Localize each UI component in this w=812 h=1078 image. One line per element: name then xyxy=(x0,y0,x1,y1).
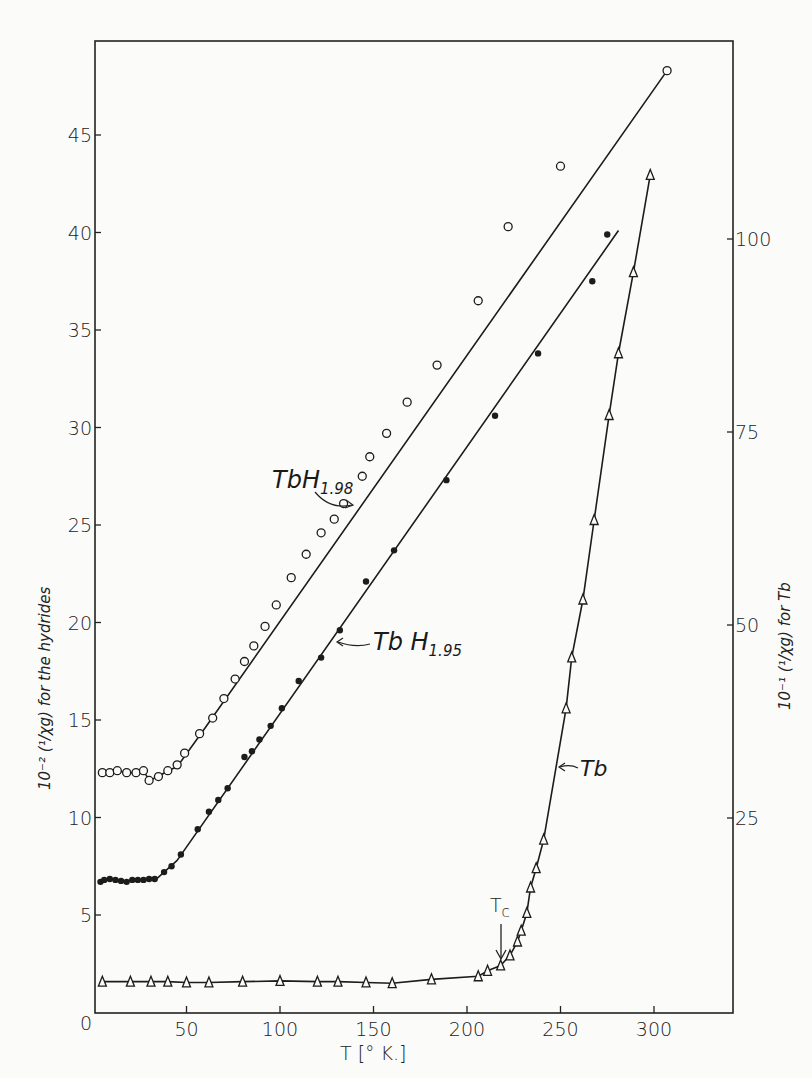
susceptibility-chart: 50100150200250300 51015202530354045 2550… xyxy=(0,0,812,1078)
fit-line-Tb xyxy=(102,175,650,983)
left-y-tick-label: 40 xyxy=(68,222,92,244)
right-y-tick-label: 25 xyxy=(735,807,759,829)
filled-circle-marker xyxy=(604,231,610,237)
x-tick-label: 200 xyxy=(449,1018,485,1040)
open-circle-marker xyxy=(240,658,248,666)
filled-circle-marker xyxy=(267,723,273,729)
right-y-axis-label: 10⁻¹ (¹/χg) for Tb xyxy=(776,582,794,710)
open-circle-marker xyxy=(173,761,181,769)
open-circle-marker xyxy=(474,297,482,305)
filled-circle-marker xyxy=(492,413,498,419)
left-y-tick-label: 5 xyxy=(80,904,92,926)
filled-circle-marker xyxy=(195,826,201,832)
open-circle-marker xyxy=(366,453,374,461)
open-triangle-marker xyxy=(614,348,622,358)
left-y-axis-ticks: 51015202530354045 xyxy=(68,124,101,926)
svg-text:Tb H1.95: Tb H1.95 xyxy=(373,628,462,660)
filled-circle-marker xyxy=(318,654,324,660)
plot-frame xyxy=(95,41,733,1013)
left-y-tick-label: 15 xyxy=(68,709,92,731)
filled-circle-marker xyxy=(118,878,124,884)
open-circle-marker xyxy=(330,515,338,523)
x-tick-label: 150 xyxy=(355,1018,391,1040)
filled-circle-marker xyxy=(249,748,255,754)
fit-lines xyxy=(100,71,667,984)
x-tick-label: 50 xyxy=(174,1018,198,1040)
x-tick-label: 100 xyxy=(262,1018,298,1040)
filled-circle-marker xyxy=(112,877,118,883)
open-circle-marker xyxy=(317,529,325,537)
open-circle-marker xyxy=(261,622,269,630)
open-triangle-marker xyxy=(605,410,613,420)
right-y-tick-label: 75 xyxy=(735,421,759,443)
open-triangle-marker xyxy=(646,169,654,179)
filled-circle-marker xyxy=(146,876,152,882)
fit-line-TbH1.98 xyxy=(102,71,667,781)
filled-circle-marker xyxy=(391,547,397,553)
open-circle-marker xyxy=(383,429,391,437)
left-y-tick-label: 10 xyxy=(68,807,92,829)
open-circle-marker xyxy=(132,769,140,777)
open-triangle-marker xyxy=(527,882,535,892)
open-circle-marker xyxy=(106,769,114,777)
open-circle-marker xyxy=(433,361,441,369)
open-circle-marker xyxy=(663,67,671,75)
filled-circle-marker xyxy=(123,879,129,885)
open-circle-marker xyxy=(181,749,189,757)
open-circle-marker xyxy=(557,162,565,170)
open-circle-marker xyxy=(139,767,147,775)
left-y-tick-label: 20 xyxy=(68,612,92,634)
open-circle-marker xyxy=(231,675,239,683)
x-axis-label: T [° K.] xyxy=(340,1042,407,1064)
arrow-tbh195 xyxy=(338,642,370,646)
origin-label: 0 xyxy=(80,1012,92,1034)
x-axis-ticks: 50100150200250300 xyxy=(174,1006,672,1040)
left-y-tick-label: 25 xyxy=(68,514,92,536)
filled-circle-marker xyxy=(363,578,369,584)
open-circle-marker xyxy=(209,714,217,722)
filled-circle-marker xyxy=(101,877,107,883)
filled-circle-marker xyxy=(168,863,174,869)
left-y-tick-label: 45 xyxy=(68,124,92,146)
svg-text:Tb: Tb xyxy=(580,756,607,781)
left-y-axis-label: 10⁻² (¹/χg) for the hydrides xyxy=(36,587,54,790)
filled-circle-marker xyxy=(215,797,221,803)
open-triangle-marker xyxy=(513,936,521,946)
x-tick-label: 250 xyxy=(542,1018,578,1040)
open-circle-marker xyxy=(164,767,172,775)
filled-circle-marker xyxy=(241,754,247,760)
open-circle-marker xyxy=(272,601,280,609)
label-tb: Tb xyxy=(559,756,607,781)
open-triangle-marker xyxy=(517,925,525,935)
open-circle-marker xyxy=(98,769,106,777)
left-y-tick-label: 30 xyxy=(68,417,92,439)
filled-circle-marker xyxy=(161,869,167,875)
filled-circle-marker xyxy=(443,477,449,483)
open-circle-marker xyxy=(196,730,204,738)
open-circle-marker xyxy=(504,223,512,231)
label-tbh195: Tb H1.95 xyxy=(337,628,462,660)
open-triangle-marker xyxy=(629,267,637,277)
filled-circle-marker xyxy=(337,627,343,633)
svg-text:Tc: Tc xyxy=(490,894,510,921)
filled-circle-marker xyxy=(224,785,230,791)
open-circle-marker xyxy=(250,642,258,650)
filled-circle-marker xyxy=(589,278,595,284)
filled-circle-marker xyxy=(129,877,135,883)
open-triangle-marker xyxy=(568,652,576,662)
open-circle-marker xyxy=(145,776,153,784)
open-triangle-marker xyxy=(540,834,548,844)
open-circle-marker xyxy=(302,550,310,558)
open-circle-marker xyxy=(287,574,295,582)
open-circle-marker xyxy=(113,767,121,775)
open-triangle-marker xyxy=(562,703,570,713)
data-markers xyxy=(97,67,671,988)
filled-circle-marker xyxy=(140,877,146,883)
fit-line-TbH1.95 xyxy=(100,231,618,882)
filled-circle-marker xyxy=(535,350,541,356)
open-triangle-marker xyxy=(579,594,587,604)
filled-circle-marker xyxy=(178,851,184,857)
filled-circle-marker xyxy=(279,705,285,711)
open-circle-marker xyxy=(358,472,366,480)
filled-circle-marker xyxy=(296,678,302,684)
